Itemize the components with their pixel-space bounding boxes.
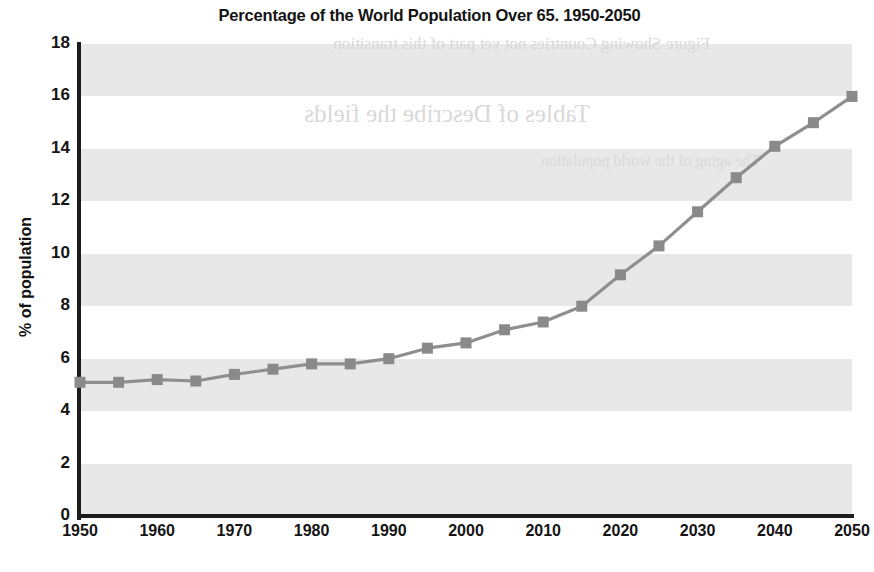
data-point-marker (615, 269, 626, 280)
data-point-marker (190, 376, 201, 387)
data-point-marker (808, 117, 819, 128)
data-point-marker (654, 240, 665, 251)
series-markers (75, 91, 858, 388)
data-point-marker (113, 377, 124, 388)
data-point-marker (229, 369, 240, 380)
data-point-marker (383, 353, 394, 364)
data-point-marker (306, 358, 317, 369)
data-point-marker (731, 172, 742, 183)
data-point-marker (769, 141, 780, 152)
data-point-marker (461, 337, 472, 348)
data-point-marker (847, 91, 858, 102)
data-point-marker (576, 301, 587, 312)
data-point-marker (499, 324, 510, 335)
data-point-marker (345, 358, 356, 369)
data-point-marker (268, 364, 279, 375)
data-point-marker (538, 317, 549, 328)
data-point-marker (152, 374, 163, 385)
data-point-marker (422, 343, 433, 354)
data-point-marker (692, 206, 703, 217)
data-point-marker (75, 377, 86, 388)
